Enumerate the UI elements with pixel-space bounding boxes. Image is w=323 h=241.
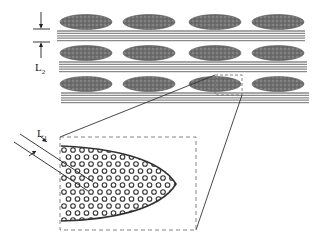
particle: [71, 148, 76, 153]
particle: [116, 162, 121, 167]
particle: [98, 190, 103, 195]
dimension-marker-l1: [14, 134, 93, 191]
particle: [84, 197, 89, 202]
particle: [120, 197, 125, 202]
particle: [120, 169, 125, 174]
particle: [89, 190, 94, 195]
ellipse-inclusion: [60, 46, 112, 61]
label-l2-sub: 2: [42, 68, 46, 76]
particle: [98, 204, 103, 209]
particle: [62, 190, 67, 195]
particle: [165, 211, 170, 216]
particle: [125, 176, 130, 181]
ellipse-inclusions: [60, 15, 304, 92]
particle: [120, 183, 125, 188]
ellipse-inclusion: [123, 77, 175, 92]
particle: [120, 155, 125, 160]
particle: [161, 190, 166, 195]
particle: [93, 155, 98, 160]
particle: [80, 204, 85, 209]
particle: [183, 197, 188, 202]
layer-bands: [57, 31, 309, 103]
particle: [71, 162, 76, 167]
particle-field: [62, 148, 188, 223]
ellipse-inclusion: [60, 15, 112, 30]
particle: [66, 169, 71, 174]
particle: [147, 197, 152, 202]
particle: [111, 183, 116, 188]
particle: [75, 155, 80, 160]
particle: [93, 197, 98, 202]
particle: [183, 183, 188, 188]
particle: [84, 183, 89, 188]
particle: [183, 169, 188, 174]
particle: [179, 190, 184, 195]
particle: [161, 148, 166, 153]
particle: [147, 183, 152, 188]
particle: [134, 190, 139, 195]
label-l1-main: L: [37, 127, 44, 139]
particle: [125, 218, 130, 223]
particle: [93, 169, 98, 174]
particle: [102, 211, 107, 216]
particle: [116, 204, 121, 209]
particle: [152, 148, 157, 153]
particle: [116, 218, 121, 223]
particle: [179, 218, 184, 223]
label-l1: L1: [37, 128, 47, 142]
particle: [134, 204, 139, 209]
particle: [111, 169, 116, 174]
particle: [107, 218, 112, 223]
particle: [138, 211, 143, 216]
particle: [62, 148, 67, 153]
particle: [111, 155, 116, 160]
particle: [147, 211, 152, 216]
particle: [84, 169, 89, 174]
particle: [161, 218, 166, 223]
particle: [134, 162, 139, 167]
label-l2-main: L: [35, 61, 42, 73]
particle: [107, 162, 112, 167]
particle: [107, 190, 112, 195]
ellipse-inclusion: [252, 46, 304, 61]
particle: [170, 218, 175, 223]
particle: [147, 169, 152, 174]
particle: [75, 211, 80, 216]
particle: [116, 176, 121, 181]
diagram-svg: [0, 0, 323, 241]
particle: [125, 204, 130, 209]
particle: [138, 169, 143, 174]
particle: [80, 190, 85, 195]
particle: [179, 204, 184, 209]
particle: [165, 183, 170, 188]
ellipse-inclusion: [252, 15, 304, 30]
particle: [129, 197, 134, 202]
particle: [183, 155, 188, 160]
particle: [107, 176, 112, 181]
particle: [66, 155, 71, 160]
particle: [174, 155, 179, 160]
particle: [102, 197, 107, 202]
label-l2: L2: [35, 62, 45, 76]
particle: [116, 190, 121, 195]
ellipse-inclusion: [252, 77, 304, 92]
particle: [161, 162, 166, 167]
particle: [156, 155, 161, 160]
particle: [66, 183, 71, 188]
particle: [80, 148, 85, 153]
particle: [179, 148, 184, 153]
particle: [138, 183, 143, 188]
particle: [125, 190, 130, 195]
particle: [89, 162, 94, 167]
particle: [174, 211, 179, 216]
particle: [102, 183, 107, 188]
particle: [170, 204, 175, 209]
particle: [156, 183, 161, 188]
particle: [156, 211, 161, 216]
particle: [170, 162, 175, 167]
particle: [129, 169, 134, 174]
particle: [93, 211, 98, 216]
particle: [143, 190, 148, 195]
ellipse-inclusion: [123, 15, 175, 30]
particle: [84, 211, 89, 216]
